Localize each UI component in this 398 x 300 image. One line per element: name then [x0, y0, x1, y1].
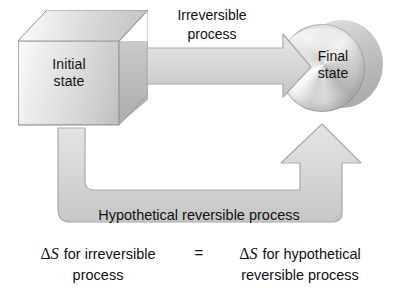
initial-state-label-line1: Initial — [20, 56, 118, 73]
equation-right-text1: for hypothetical — [258, 246, 360, 262]
delta-symbol-left: Δ — [40, 245, 50, 262]
equation-left-side: ΔS for irreversible process — [14, 243, 182, 286]
irreversible-process-label-line1: Irreversible — [142, 6, 282, 25]
equals-operator: = — [182, 243, 216, 261]
initial-state-cube: Initial state — [18, 10, 148, 130]
diagram-canvas: Initial state Final state — [0, 0, 398, 300]
entropy-equation: ΔS for irreversible process = ΔS for hyp… — [10, 243, 388, 286]
irreversible-process-label: Irreversible process — [142, 6, 282, 44]
final-state-disc: Final state — [279, 18, 385, 118]
equation-left-line2: process — [14, 265, 182, 286]
final-state-label-line2: state — [295, 65, 371, 82]
hypothetical-reversible-process-label: Hypothetical reversible process — [39, 207, 359, 223]
delta-symbol-right: Δ — [239, 245, 249, 262]
cube-right-face — [118, 41, 148, 125]
equation-right-side: ΔS for hypothetical reversible process — [216, 243, 384, 286]
final-state-label: Final state — [295, 48, 371, 82]
equation-left-line1: ΔS for irreversible — [14, 243, 182, 265]
initial-state-label: Initial state — [20, 56, 118, 90]
equation-left-text1: for irreversible — [60, 246, 156, 262]
irreversible-process-label-line2: process — [142, 25, 282, 44]
equation-right-line1: ΔS for hypothetical — [216, 243, 384, 265]
cube-top-face — [18, 10, 148, 42]
entropy-variable-left: S — [51, 245, 60, 262]
final-state-label-line1: Final — [295, 48, 371, 65]
initial-state-label-line2: state — [20, 73, 118, 90]
equation-right-line2: reversible process — [216, 265, 384, 286]
